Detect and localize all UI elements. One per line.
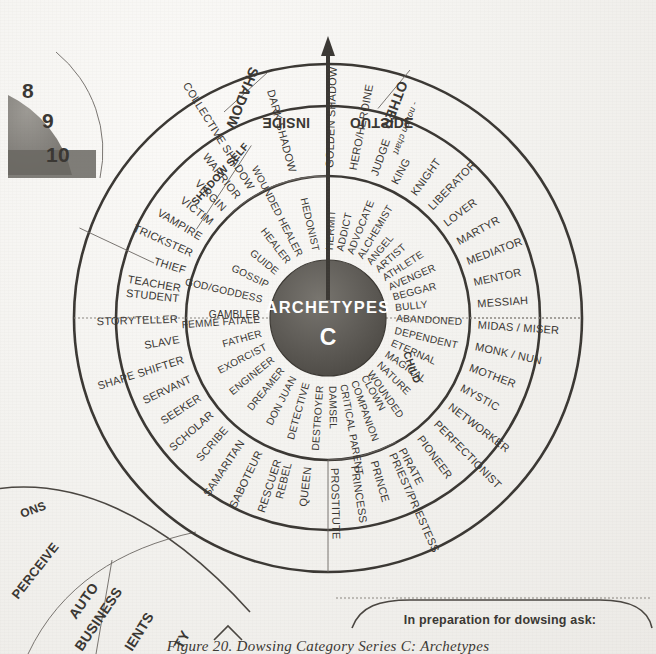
outer-label-perfectionist: PERFECTIONIST (432, 418, 504, 491)
outer-label-judge: JUDGE (368, 137, 392, 177)
hub-series-letter: C (320, 324, 337, 350)
gauge-tick-9: 9 (42, 109, 54, 132)
gauge-tick-10: 10 (46, 143, 70, 166)
outer-label-slave: SLAVE (143, 333, 180, 351)
inner-label-destroyer: DESTROYER (310, 385, 326, 451)
outer-label-mentor: MENTOR (472, 266, 522, 288)
fragment-perceive: PERCEIVE (9, 539, 62, 601)
outer-label-queen: QUEEN (297, 466, 313, 507)
inner-label-abandoned: ABANDONED (396, 313, 463, 327)
outer-label-lover: LOVER (441, 196, 479, 229)
outer-label-prostitute: PROSTITUTE (329, 468, 342, 540)
figure-caption: Figure 20. Dowsing Category Series C: Ar… (0, 638, 656, 654)
outer-label-monk-nun: MONK / NUN (474, 340, 543, 366)
outer-label-midas-miser: MIDAS / MISER (477, 319, 559, 337)
dowsing-box-text: In preparation for dowsing ask: (404, 613, 596, 627)
outer-label-princess: PRINCESS (349, 465, 370, 524)
inner-label-gambler: GAMBLER (209, 309, 260, 320)
pointer-arrow-icon (321, 36, 335, 56)
outer-label-mediator: MEDIATOR (465, 235, 524, 267)
gauge-tick-8: 8 (22, 79, 34, 102)
fragment-ons: ONS (18, 499, 48, 521)
outer-label-mother: MOTHER (468, 361, 518, 389)
header-shadow: SHADOW (223, 65, 262, 132)
outer-label-golden-shadow: GOLDEN SHADOW (323, 66, 339, 168)
outer-label-king: KING (389, 156, 413, 186)
outer-label-storyteller: STORYTELLER (97, 313, 179, 328)
hub-title: ARCHETYPES (266, 298, 391, 316)
inner-label-bully: BULLY (395, 299, 429, 313)
neighbor-gauge-fragment: 8 9 10 (8, 52, 103, 178)
archetypes-wheel: 8 9 10 ONS PERCEIVE AUTO BUSINESS IENTS … (0, 0, 656, 654)
inner-label-hedonist: HEDONIST (299, 197, 322, 252)
outer-label-messiah: MESSIAH (477, 294, 529, 310)
neighbor-dowsing-box: In preparation for dowsing ask: (336, 598, 652, 628)
neighbor-bottom-left-fragment: ONS PERCEIVE AUTO BUSINESS IENTS TY (0, 487, 250, 654)
inner-label-damsel: DAMSEL (327, 386, 339, 429)
outer-label-prince: PRINCE (368, 459, 392, 503)
outer-label-thief: THIEF (153, 255, 188, 276)
